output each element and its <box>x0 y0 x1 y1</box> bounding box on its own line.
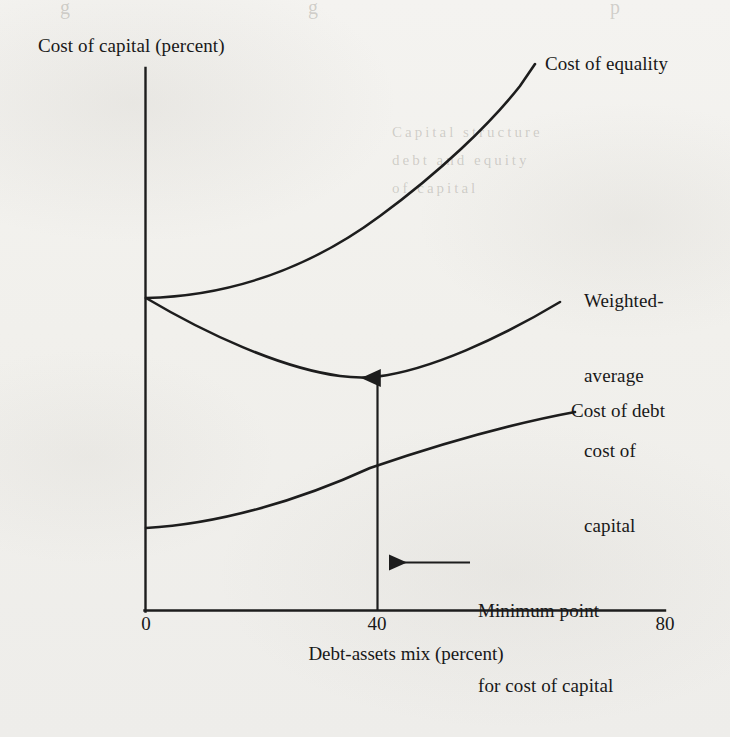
cost-of-debt-curve <box>146 412 575 528</box>
minimum-point-annotation-line-2: for cost of capital <box>478 673 613 698</box>
cost-of-capital-figure: g g p g p Capital structure debt and equ… <box>0 0 730 737</box>
cost-of-equality-curve <box>146 64 535 298</box>
y-axis-title: Cost of capital (percent) <box>38 33 225 58</box>
x-tick-label-0: 0 <box>126 613 166 635</box>
x-tick-label-80: 80 <box>645 613 685 635</box>
cost-of-debt-label: Cost of debt <box>571 398 665 423</box>
cost-of-equality-label: Cost of equality <box>545 51 668 76</box>
x-tick-label-40: 40 <box>357 613 397 635</box>
wacc-label-line-3: cost of <box>584 438 664 463</box>
wacc-label-line-2: average <box>584 363 664 388</box>
wacc-label-line-4: capital <box>584 513 664 538</box>
minimum-point-annotation-line-1: Minimum point <box>478 598 613 623</box>
minimum-point-annotation: Minimum point for cost of capital <box>478 548 613 737</box>
weighted-average-cost-of-capital-curve <box>146 298 560 378</box>
wacc-label-line-1: Weighted- <box>584 288 664 313</box>
